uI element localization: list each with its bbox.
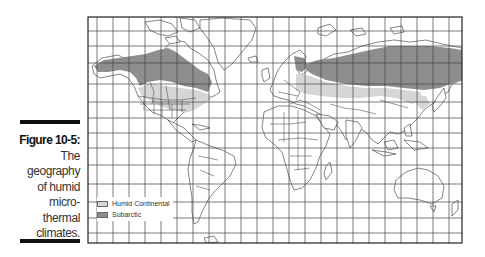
australia [394,168,444,204]
legend-item-subarctic: Subarctic [97,209,170,220]
legend-item-humid-continental: Humid Continental [97,198,170,209]
legend-label: Humid Continental [112,200,170,207]
humid-continental-swatch [97,201,108,207]
south-america [188,140,236,224]
legend-label: Subarctic [112,211,141,218]
subarctic-scandinavia [294,56,308,72]
world-climate-map: Humid Continental Subarctic [0,0,485,257]
subarctic-swatch [97,212,108,218]
map-legend: Humid Continental Subarctic [97,197,173,221]
